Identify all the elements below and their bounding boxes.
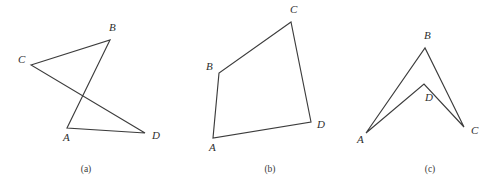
figure-c-vertex-label-D: D [424,91,433,103]
figures-canvas: A B C D (a) A B C D (b) A B C D (c) [0,0,500,184]
figure-b: A B C D (b) [206,3,325,175]
figure-c-vertex-label-B: B [424,29,431,41]
figure-panel: A B C D (a) A B C D (b) A B C D (c) [0,0,500,184]
figure-b-vertex-label-B: B [206,60,213,72]
figure-b-vertex-label-D: D [316,118,325,130]
figure-c-caption: (c) [425,164,436,175]
figure-c-outline [366,48,464,133]
figure-c: A B C D (c) [356,29,479,175]
figure-a: A B C D (a) [18,21,160,175]
figure-b-caption: (b) [264,164,275,175]
figure-b-vertex-label-C: C [290,3,298,15]
figure-c-vertex-label-A: A [356,133,364,145]
figure-b-outline [213,22,311,138]
figure-a-caption: (a) [81,164,92,175]
figure-a-vertex-label-C: C [18,53,26,65]
figure-c-vertex-label-C: C [471,124,479,136]
figure-a-vertex-label-A: A [62,131,70,143]
figure-a-vertex-label-D: D [151,129,160,141]
figure-b-vertex-label-A: A [208,141,216,153]
figure-a-outline [31,40,145,133]
figure-a-vertex-label-B: B [109,21,116,33]
